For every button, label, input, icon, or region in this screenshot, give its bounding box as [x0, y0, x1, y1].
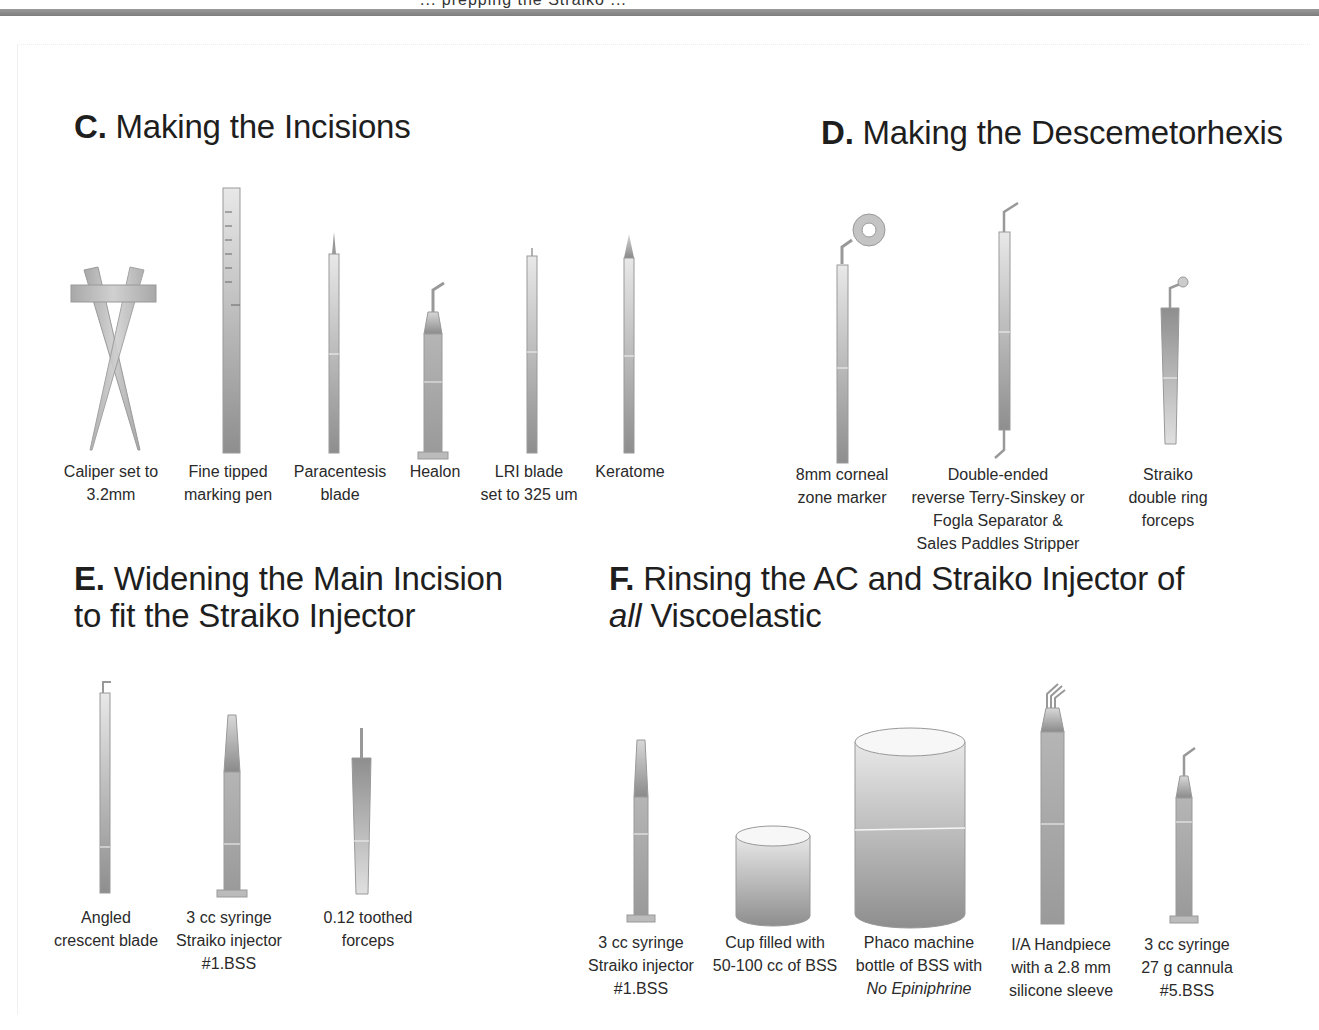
section-d-title: Making the Descemetorhexis [863, 114, 1283, 151]
section-e-letter: E. [74, 560, 105, 597]
header-divider-bar [0, 9, 1319, 16]
section-e-title-line1: Widening the Main Incision [114, 560, 503, 597]
caption-paracentesis-blade: Paracentesisblade [294, 460, 387, 506]
straiko-injector-syringe-icon [626, 739, 658, 925]
crescent-blade-icon [98, 680, 118, 895]
section-c-letter: C. [74, 108, 107, 145]
caption-ia-handpiece: I/A Handpiecewith a 2.8 mm silicone slee… [1009, 933, 1113, 1002]
caption-bss-cup: Cup filled with50-100 cc of BSS [713, 931, 838, 977]
section-c-title: Making the Incisions [116, 108, 411, 145]
keratome-icon [622, 234, 636, 454]
caption-healon: Healon [410, 460, 461, 483]
bss-bottle-icon [853, 726, 967, 930]
straiko-injector-syringe-icon [216, 714, 250, 900]
caption-caliper: Caliper set to3.2mm [64, 460, 158, 506]
caption-straiko-injector-f: 3 cc syringeStraiko injector #1.BSS [588, 931, 694, 1000]
section-d-heading: D. Making the Descemetorhexis [821, 114, 1283, 151]
figure-frame [17, 44, 1310, 1015]
paracentesis-blade-icon [327, 232, 341, 454]
zone-marker-icon [834, 212, 890, 464]
section-f-heading: F. Rinsing the AC and Straiko Injector o… [609, 560, 1184, 634]
section-e-title-line2: to fit the Straiko Injector [74, 597, 503, 634]
cut-off-page-title: ... prepping the Straiko ... [420, 0, 627, 9]
bss-cup-icon [734, 824, 814, 929]
section-d-letter: D. [821, 114, 854, 151]
caliper-icon [68, 265, 160, 455]
cannula-syringe-icon [1170, 746, 1204, 926]
toothed-forceps-icon [350, 728, 376, 896]
section-f-title-line2: Viscoelastic [641, 597, 821, 634]
caption-zone-marker: 8mm cornealzone marker [796, 463, 888, 509]
healon-syringe-icon [418, 282, 452, 462]
caption-double-ended-separator: Double-endedreverse Terry-Sinskey or Fog… [911, 463, 1084, 555]
caption-lri-blade: LRI bladeset to 325 um [481, 460, 578, 506]
section-f-letter: F. [609, 560, 634, 597]
marking-pen-icon [222, 187, 242, 455]
double-ended-separator-icon [994, 202, 1024, 460]
section-c-heading: C. Making the Incisions [74, 108, 411, 145]
caption-marking-pen: Fine tippedmarking pen [184, 460, 272, 506]
caption-cannula-syringe: 3 cc syringe27 g cannula #5.BSS [1141, 933, 1233, 1002]
caption-toothed-forceps: 0.12 toothedforceps [324, 906, 413, 952]
caption-crescent-blade: Angledcrescent blade [54, 906, 158, 952]
section-f-title-emphasis: all [609, 597, 641, 634]
ia-handpiece-icon [1038, 678, 1070, 926]
lri-blade-icon [525, 248, 539, 454]
caption-bss-bottle: Phaco machinebottle of BSS with No Epini… [856, 931, 982, 1000]
section-e-heading: E. Widening the Main Incision to fit the… [74, 560, 503, 634]
section-f-title-line1: Rinsing the AC and Straiko Injector of [643, 560, 1184, 597]
caption-double-ring-forceps: Straikodouble ring forceps [1128, 463, 1207, 532]
caption-keratome: Keratome [595, 460, 664, 483]
double-ring-forceps-icon [1158, 274, 1192, 446]
caption-straiko-injector-e: 3 cc syringeStraiko injector #1.BSS [176, 906, 282, 975]
